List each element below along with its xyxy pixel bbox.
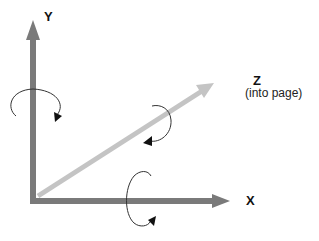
z-axis-sublabel: (into page) [245,86,302,100]
y-axis-label: Y [44,9,53,24]
z-axis-arrow [38,83,214,196]
x-axis-arrow [30,194,230,208]
axes-drawing [0,0,319,241]
axes-diagram: Y X Z (into page) [0,0,319,241]
x-axis-label: X [246,193,255,208]
y-rotation-arrow-icon [11,89,62,122]
y-axis-arrow [26,20,40,204]
